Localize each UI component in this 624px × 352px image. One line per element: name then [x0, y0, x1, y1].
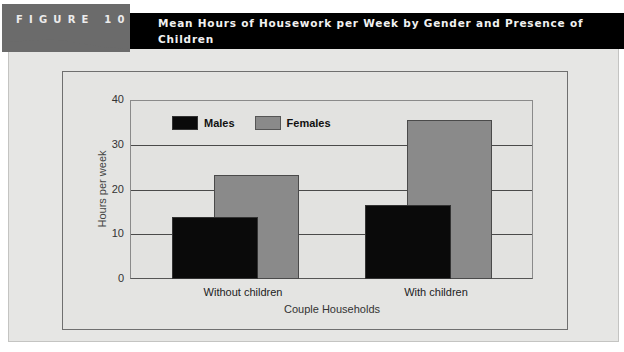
legend-swatch-males: [172, 116, 198, 130]
legend-label-males: Males: [204, 117, 235, 129]
legend-swatch-females: [255, 116, 281, 130]
x-tick-label: With children: [404, 286, 468, 298]
bar-males-without-children: [172, 217, 258, 279]
y-axis-label: Hours per week: [96, 134, 108, 244]
y-tick-label: 0: [94, 272, 124, 284]
y-tick-label: 40: [94, 93, 124, 105]
x-tick-label: Without children: [204, 286, 283, 298]
bar-males-with-children: [365, 205, 451, 279]
x-axis-label: Couple Households: [284, 303, 380, 315]
tab-wave-decoration: [2, 36, 130, 50]
legend: Males Females: [172, 116, 351, 130]
legend-label-females: Females: [287, 117, 331, 129]
figure-title: Mean Hours of Housework per Week by Gend…: [158, 15, 598, 47]
